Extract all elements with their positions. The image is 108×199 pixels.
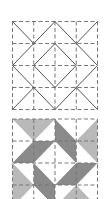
dark-gray-parallelogram	[34, 163, 55, 199]
top-line-diagram	[13, 22, 98, 110]
solid-diagonal-line	[13, 22, 34, 44]
solid-diagonal-line	[55, 44, 76, 66]
light-gray-triangle	[13, 163, 34, 199]
quilt-diagram-figure	[0, 0, 108, 199]
solid-diagonal-line	[34, 66, 55, 88]
solid-diagonal-line	[55, 66, 76, 88]
solid-diagonal-line	[76, 88, 97, 110]
quilt-diagram-canvas	[0, 0, 108, 199]
solid-diagonal-line	[13, 88, 34, 110]
solid-diagonal-line	[34, 44, 55, 66]
solid-diagonal-line	[76, 22, 97, 44]
bottom-shaded-block	[13, 119, 98, 199]
